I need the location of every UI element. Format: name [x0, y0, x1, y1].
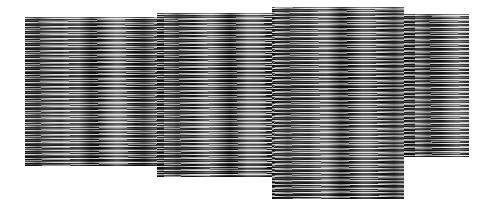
streak-panel-4	[404, 14, 469, 157]
streak-panel-2	[157, 13, 272, 177]
streak-panel-1	[25, 17, 157, 166]
streak-panel-3	[272, 7, 404, 199]
